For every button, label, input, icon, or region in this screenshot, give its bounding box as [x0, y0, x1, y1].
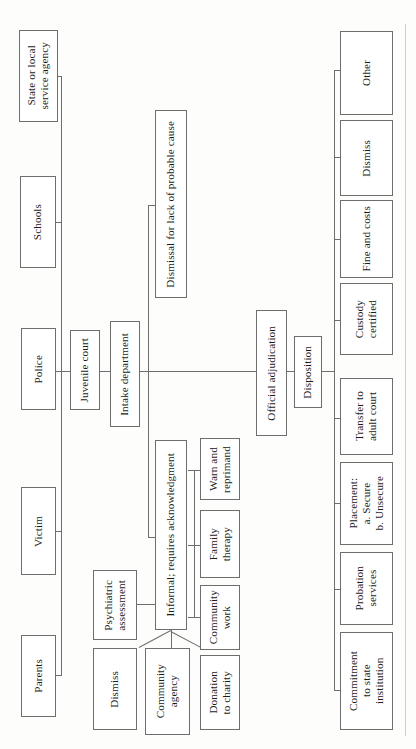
connector-informal-to-donation: [171, 631, 203, 649]
node-psychiatric-assessment[interactable]: Psychiatric assessment: [93, 570, 137, 640]
node-label: Custody certified: [353, 300, 379, 338]
node-label: Dismiss: [360, 140, 373, 177]
node-label: Fine and costs: [360, 206, 373, 271]
node-community-agency[interactable]: Community agency: [145, 648, 190, 735]
node-label: Juvenile court: [78, 338, 91, 402]
connector-parents: [56, 675, 62, 676]
node-intake-department[interactable]: Intake department: [110, 321, 140, 427]
node-label: Donation to charity: [207, 671, 233, 715]
connector-intake-out: [140, 371, 256, 372]
connector-informal-to-family-therapy: [188, 545, 200, 546]
node-label: Other: [360, 60, 373, 86]
node-police[interactable]: Police: [21, 328, 56, 410]
connector-victim: [56, 531, 62, 532]
node-label: Victim: [32, 516, 45, 547]
node-schools[interactable]: Schools: [20, 176, 56, 268]
page-edge-line: [405, 24, 406, 736]
node-label: Disposition: [301, 346, 314, 399]
node-dismiss-disposition[interactable]: Dismiss: [340, 120, 393, 196]
node-label: Dismiss: [108, 671, 121, 708]
node-label: Family therapy: [207, 527, 233, 561]
node-label: Community work: [207, 590, 233, 644]
node-label: Transfer to adult court: [353, 391, 379, 441]
node-label: Schools: [31, 204, 44, 240]
node-fine-and-costs[interactable]: Fine and costs: [340, 200, 393, 278]
connector-sources-trunk: [61, 76, 62, 676]
node-label: Placement: a. Secure b. Unsecure: [347, 476, 387, 531]
connector-informal-to-dismiss: [139, 630, 171, 648]
node-official-adjudication[interactable]: Official adjudication: [256, 310, 287, 436]
node-label: Probation services: [353, 566, 379, 610]
node-victim[interactable]: Victim: [21, 487, 56, 575]
connector-juvenile-court-to-intake: [100, 371, 110, 372]
connector-informal-to-community-work: [188, 617, 200, 618]
node-label: State or local service agency: [25, 42, 51, 110]
node-label: Warn and reprimand: [207, 446, 233, 493]
node-label: Dismissal for lack of probable cause: [164, 121, 177, 288]
node-donation-to-charity[interactable]: Donation to charity: [200, 655, 240, 730]
node-commitment-to-state-institution[interactable]: Commitment to state institution: [340, 632, 393, 730]
connector-disposition-outcomes-spine: [334, 70, 335, 690]
node-warn-and-reprimand[interactable]: Warn and reprimand: [200, 438, 240, 500]
node-transfer-to-adult-court[interactable]: Transfer to adult court: [340, 378, 393, 455]
flow-chart-canvas: State or local service agency Schools Po…: [0, 0, 416, 749]
node-informal[interactable]: Informal; requires acknowledgment: [155, 440, 187, 630]
connector-state-agency: [58, 76, 62, 77]
node-label: Commitment to state institution: [347, 651, 387, 711]
node-label: Official adjudication: [265, 326, 278, 421]
node-other[interactable]: Other: [340, 31, 393, 115]
node-custody-certified[interactable]: Custody certified: [340, 283, 393, 355]
node-state-agency[interactable]: State or local service agency: [19, 30, 58, 122]
node-label: Intake department: [118, 333, 131, 416]
node-juvenile-court[interactable]: Juvenile court: [70, 330, 100, 410]
node-label: Psychiatric assessment: [102, 580, 128, 631]
node-disposition[interactable]: Disposition: [294, 336, 322, 408]
connector-intake-outcomes-spine: [148, 205, 149, 537]
connector-informal-to-psychiatric: [137, 604, 155, 605]
node-label: Police: [32, 355, 45, 384]
node-label: Parents: [32, 659, 45, 693]
node-parents[interactable]: Parents: [21, 635, 56, 717]
connector-informal-to-warn: [188, 470, 200, 471]
node-dismiss-informal[interactable]: Dismiss: [93, 648, 137, 730]
connector-schools: [55, 222, 62, 223]
node-probation-services[interactable]: Probation services: [340, 552, 393, 625]
node-community-work[interactable]: Community work: [200, 585, 240, 650]
node-family-therapy[interactable]: Family therapy: [200, 510, 240, 578]
node-dismissal-probable-cause[interactable]: Dismissal for lack of probable cause: [155, 110, 187, 298]
connector-informal-children-spine: [194, 470, 195, 617]
node-label: Community agency: [154, 664, 180, 718]
node-label: Informal; requires acknowledgment: [164, 453, 177, 617]
node-placement[interactable]: Placement: a. Secure b. Unsecure: [340, 462, 393, 545]
